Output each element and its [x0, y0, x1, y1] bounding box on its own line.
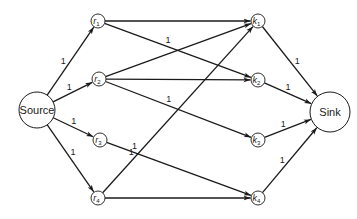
- node-source: Source: [19, 92, 55, 128]
- node-r1: r1: [91, 14, 105, 28]
- edge-source-r2: [53, 82, 92, 102]
- capacity-label-k3-sink: 1: [281, 119, 286, 129]
- capacity-label-k2-sink: 1: [285, 82, 290, 92]
- node-k3: k3: [251, 133, 265, 147]
- capacity-label-source-r2: 1: [67, 82, 72, 92]
- node-label-source: Source: [20, 104, 55, 116]
- node-k4: k4: [251, 191, 265, 205]
- edge-k4-sink: [262, 128, 316, 193]
- edges-layer: [47, 21, 317, 198]
- capacity-label-k4-sink: 1: [280, 155, 285, 165]
- capacity-label-source-r4: 1: [71, 147, 76, 157]
- node-r2: r2: [92, 72, 106, 86]
- capacity-label-source-r3: 1: [71, 116, 76, 126]
- node-r3: r3: [93, 133, 107, 147]
- nodes-layer: Sourcer1r2r3r4k1k2k3k4Sink: [19, 14, 350, 205]
- node-sink: Sink: [310, 92, 350, 132]
- capacity-label-r1-k2: 1: [166, 35, 171, 45]
- edge-r4-k1: [103, 27, 253, 193]
- edge-source-r4: [47, 125, 93, 192]
- edge-k3-sink: [265, 119, 311, 137]
- capacity-label-r2-k3: 1: [166, 94, 171, 104]
- capacity-label-source-r1: 1: [61, 56, 66, 66]
- node-k1: k1: [251, 14, 265, 28]
- capacity-label-r4-k1: 1: [129, 147, 134, 157]
- capacity-label-k1-sink: 1: [295, 56, 300, 66]
- node-k2: k2: [251, 73, 265, 87]
- flow-network-diagram: 111111111111 Sourcer1r2r3r4k1k2k3k4Sink: [0, 0, 357, 219]
- node-r4: r4: [91, 191, 105, 205]
- node-label-sink: Sink: [319, 106, 341, 118]
- edge-r2-k2: [106, 79, 251, 80]
